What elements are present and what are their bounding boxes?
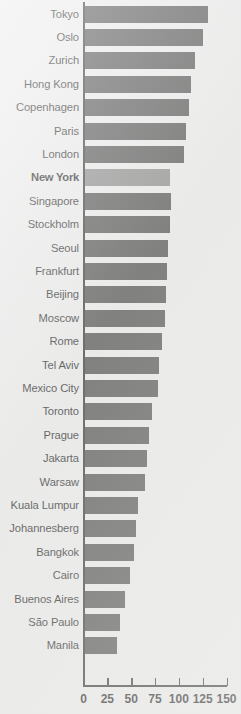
bar[interactable] [84,567,131,584]
bar-row[interactable]: Zurich [0,49,240,72]
bar-category-label: Singapore [0,190,79,213]
bar-row[interactable]: Seoul [0,237,240,260]
bar-row[interactable]: Moscow [0,307,240,330]
bar[interactable] [84,591,126,608]
bar-category-label: Mexico City [0,377,79,400]
bar[interactable] [84,146,184,163]
bar-category-label: Manila [0,634,79,657]
bar[interactable] [84,427,150,444]
bar[interactable] [84,380,158,397]
bar[interactable] [84,216,171,233]
bar[interactable] [84,76,192,93]
bar-row[interactable]: New York [0,166,240,189]
bar-row[interactable]: Paris [0,120,240,143]
bar-row[interactable]: Jakarta [0,447,240,470]
plot-area: TokyoOsloZurichHong KongCopenhagenParisL… [0,0,240,714]
bar-row[interactable]: Warsaw [0,471,240,494]
bar-row[interactable]: Copenhagen [0,96,240,119]
bar[interactable] [84,520,136,537]
bar[interactable] [84,544,135,561]
bar-row[interactable]: Tel Aviv [0,354,240,377]
bar[interactable] [84,403,153,420]
bar-row[interactable]: Kuala Lumpur [0,494,240,517]
x-axis-tick [179,678,180,686]
bar[interactable] [84,614,120,631]
bar[interactable] [84,29,203,46]
bar-category-label: São Paulo [0,611,79,634]
bar[interactable] [84,497,138,514]
x-axis-tick [203,678,204,686]
bar-row[interactable]: Buenos Aires [0,588,240,611]
bar-row[interactable]: Hong Kong [0,73,240,96]
bar-category-label: Bangkok [0,541,79,564]
bar-row[interactable]: London [0,143,240,166]
bar[interactable] [84,474,145,491]
x-axis-tick [131,678,132,686]
bar-row[interactable]: Toronto [0,400,240,423]
y-axis-line [83,2,85,686]
bar-category-label: London [0,143,79,166]
x-axis-tick [227,678,228,686]
bar[interactable] [84,450,148,467]
bar[interactable] [84,6,209,23]
bar-category-label: Tel Aviv [0,354,79,377]
bar-row[interactable]: Singapore [0,190,240,213]
bar-category-label: Prague [0,424,79,447]
bar[interactable] [84,52,196,69]
bar-category-label: Zurich [0,49,79,72]
bar[interactable] [84,240,169,257]
bar-row[interactable]: Frankfurt [0,260,240,283]
bar-row[interactable]: Johannesberg [0,517,240,540]
bar-row[interactable]: Tokyo [0,3,240,26]
bar[interactable] [84,333,162,350]
bar-row[interactable]: Bangkok [0,541,240,564]
bar[interactable] [84,357,159,374]
bar[interactable] [84,637,117,654]
bar-row[interactable]: Beijing [0,283,240,306]
bar-row[interactable]: Oslo [0,26,240,49]
bar[interactable] [84,310,165,327]
horizontal-bar-chart: TokyoOsloZurichHong KongCopenhagenParisL… [0,0,240,714]
bar-category-label: Frankfurt [0,260,79,283]
bar-category-label: Seoul [0,237,79,260]
bar-category-label: Paris [0,120,79,143]
bar-row[interactable]: São Paulo [0,611,240,634]
x-axis-tick [107,678,108,686]
bar-row[interactable]: Rome [0,330,240,353]
bar[interactable] [84,123,187,140]
bar-category-label: Tokyo [0,3,79,26]
bar-category-label: Moscow [0,307,79,330]
bar-row[interactable]: Manila [0,634,240,657]
bar-category-label: Buenos Aires [0,588,79,611]
bar-category-label: Warsaw [0,471,79,494]
bar-row[interactable]: Mexico City [0,377,240,400]
bar-category-label: Copenhagen [0,96,79,119]
bar-category-label: Kuala Lumpur [0,494,79,517]
bar-row[interactable]: Prague [0,424,240,447]
bar-category-label: Stockholm [0,213,79,236]
x-axis-tick [155,678,156,686]
bar-category-label: Johannesberg [0,517,79,540]
bar[interactable] [84,286,167,303]
bar-category-label: Cairo [0,564,79,587]
bar-category-label: Beijing [0,283,79,306]
bar[interactable] [84,263,168,280]
bar[interactable] [84,193,172,210]
bar[interactable] [84,99,190,116]
bar-category-label: Rome [0,330,79,353]
bar[interactable] [84,169,171,186]
bar-category-label: Toronto [0,400,79,423]
bar-category-label: Jakarta [0,447,79,470]
x-axis-tick-label: 150 [212,692,241,706]
bar-category-label: New York [0,166,79,189]
bar-row[interactable]: Cairo [0,564,240,587]
bar-category-label: Oslo [0,26,79,49]
bar-category-label: Hong Kong [0,73,79,96]
bar-row[interactable]: Stockholm [0,213,240,236]
